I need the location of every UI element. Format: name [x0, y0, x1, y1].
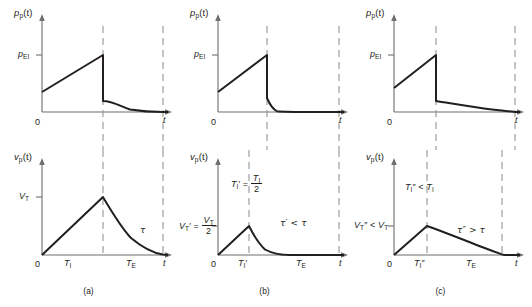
panel-b: pp(t) pEI t 0 vp(t) — [176, 0, 353, 307]
vt-prime-relation: VT′ = VT 2 — [179, 216, 216, 238]
ti-fraction: TI 2 — [251, 173, 263, 195]
pressure-y-tick-label: pEI — [18, 50, 30, 59]
pressure-y-axis-label: pp(t) — [14, 8, 32, 18]
volume-y-tick-label: VT — [19, 192, 29, 201]
volume-origin-label: 0 — [211, 260, 216, 269]
volume-xtick-ti-label: TI — [64, 259, 72, 268]
volume-waveform — [42, 197, 168, 255]
y-axis-arrowhead — [215, 14, 221, 21]
panel-a-pressure-svg — [0, 0, 177, 150]
panel-caption: (c) — [352, 286, 529, 296]
y-axis-arrowhead — [215, 158, 221, 165]
vt-fraction: VT 2 — [202, 215, 216, 237]
volume-x-axis-label: t — [339, 259, 342, 268]
vt-doubleprime-relation: VT″ < VT — [354, 221, 388, 230]
ti-doubleprime-relation: TI″ < TI — [405, 183, 434, 192]
volume-origin-label: 0 — [35, 260, 40, 269]
pressure-x-axis-label: t — [163, 116, 166, 125]
panel-c-volume-plot: vp(t) VT″ < VT TI″ < TI t 0 TI″ TE — [352, 150, 529, 300]
volume-xtick-ti-doubleprime-label: TI″ — [414, 259, 425, 268]
panel-c-pressure-plot: pp(t) pEI t 0 — [352, 0, 529, 150]
panel-c: pp(t) pEI t 0 vp(t) — [352, 0, 529, 307]
volume-xtick-ti-prime-label: TI′ — [238, 259, 247, 268]
panel-a: pp(t) pEI t 0 vp(t) — [0, 0, 177, 307]
pressure-y-tick-label: pEI — [370, 50, 382, 59]
volume-x-axis-label: t — [515, 259, 518, 268]
tau-annotation: τ′ < τ — [280, 219, 307, 228]
figure-root: pp(t) pEI t 0 vp(t) — [0, 0, 532, 307]
panel-b-pressure-svg — [176, 0, 353, 150]
panel-caption: (b) — [176, 286, 353, 296]
volume-y-axis-label: vp(t) — [190, 152, 208, 162]
volume-y-axis-label: vp(t) — [366, 152, 384, 162]
volume-xtick-te-label: TE — [296, 259, 306, 268]
volume-waveform — [218, 226, 344, 255]
y-axis-arrowhead — [391, 158, 397, 165]
panel-a-pressure-plot: pp(t) pEI t 0 — [0, 0, 177, 150]
tau-annotation: τ″ > τ — [457, 226, 485, 235]
panel-caption: (a) — [0, 286, 177, 296]
volume-y-axis-label: vp(t) — [14, 152, 32, 162]
pressure-x-axis-label: t — [339, 116, 342, 125]
y-axis-arrowhead — [39, 158, 45, 165]
pressure-origin-label: 0 — [211, 118, 216, 127]
pressure-x-axis-label: t — [515, 116, 518, 125]
pressure-origin-label: 0 — [387, 118, 392, 127]
y-axis-arrowhead — [39, 14, 45, 21]
panel-b-pressure-plot: pp(t) pEI t 0 — [176, 0, 353, 150]
tau-annotation: τ — [140, 226, 146, 235]
y-axis-arrowhead — [391, 14, 397, 21]
pressure-y-axis-label: pp(t) — [366, 8, 384, 18]
pressure-y-tick-label: pEI — [194, 50, 206, 59]
panel-c-pressure-svg — [352, 0, 529, 150]
pressure-waveform — [42, 55, 168, 112]
pressure-origin-label: 0 — [35, 118, 40, 127]
pressure-waveform — [394, 55, 520, 112]
volume-xtick-te-label: TE — [126, 259, 136, 268]
pressure-y-axis-label: pp(t) — [190, 8, 208, 18]
volume-origin-label: 0 — [387, 260, 392, 269]
volume-x-axis-label: t — [163, 259, 166, 268]
panel-b-volume-plot: vp(t) VT′ = VT 2 TI′ = TI 2 — [176, 150, 353, 300]
pressure-waveform — [218, 55, 344, 112]
panel-a-volume-svg — [0, 150, 177, 307]
volume-xtick-te-label: TE — [466, 259, 476, 268]
ti-prime-relation: TI′ = TI 2 — [231, 174, 262, 196]
panel-a-volume-plot: vp(t) VT t 0 TI TE τ (a) — [0, 150, 177, 300]
